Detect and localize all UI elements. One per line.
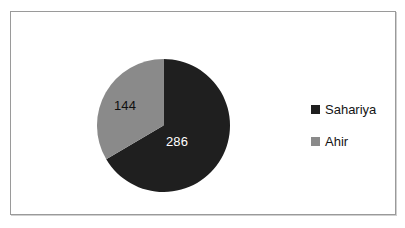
chart-legend: Sahariya Ahir [311, 98, 401, 162]
legend-item-ahir[interactable]: Ahir [311, 130, 401, 152]
pie-chart [97, 59, 230, 192]
legend-label-ahir: Ahir [325, 135, 348, 148]
legend-swatch-ahir [311, 137, 320, 146]
chart-frame: 144 286 Sahariya Ahir [10, 11, 396, 215]
legend-swatch-sahariya [311, 105, 320, 114]
legend-item-sahariya[interactable]: Sahariya [311, 98, 401, 120]
legend-label-sahariya: Sahariya [325, 103, 376, 116]
chart-screenshot: 144 286 Sahariya Ahir [0, 0, 405, 228]
pie-slice-value-sahariya: 286 [166, 135, 188, 148]
pie-slice-value-ahir: 144 [114, 99, 136, 112]
pie-plot-area: 144 286 [97, 59, 230, 192]
